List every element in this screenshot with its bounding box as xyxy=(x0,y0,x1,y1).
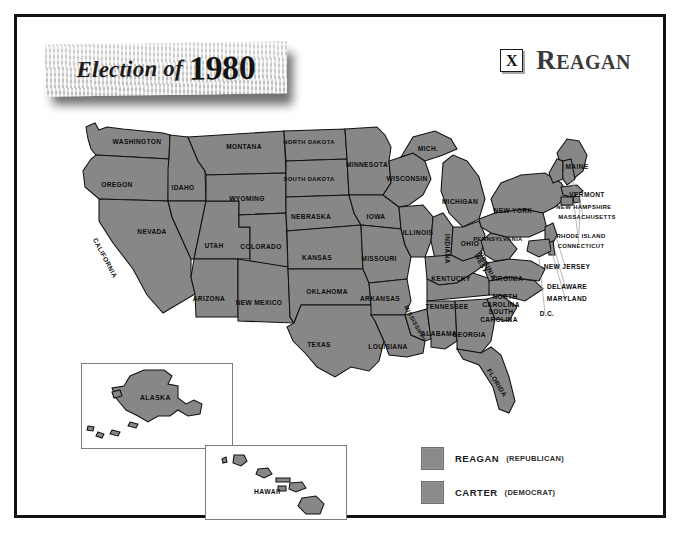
inset-label-alaska: ALASKA xyxy=(140,394,171,401)
inset-alaska[interactable]: ALASKA xyxy=(81,363,233,449)
state-oregon[interactable] xyxy=(83,155,169,201)
state-label-connecticut: CONNECTICUT xyxy=(558,243,605,249)
state-label-texas: TEXAS xyxy=(307,341,331,348)
hawaii-kauai[interactable] xyxy=(233,455,247,466)
state-label-michigan: MICHIGAN xyxy=(442,198,478,205)
leader-line-maryland xyxy=(551,249,565,298)
state-label-massachusetts: MASSACHUSETTS xyxy=(558,214,616,220)
state-label-carolina: CAROLINA xyxy=(482,301,520,308)
state-label-south: SOUTH xyxy=(489,308,514,315)
state-label-arizona: ARIZONA xyxy=(193,295,226,302)
state-label-kansas: KANSAS xyxy=(302,254,332,261)
state-label-nebraska: NEBRASKA xyxy=(291,213,331,220)
state-label-d-c-: D.C. xyxy=(540,310,555,317)
state-vermont[interactable] xyxy=(549,159,563,183)
state-label-missouri: MISSOURI xyxy=(361,255,396,262)
state-label-new-jersey: NEW JERSEY xyxy=(544,263,591,270)
state-maryland[interactable] xyxy=(527,239,551,257)
hawaii-big-island[interactable] xyxy=(298,496,324,514)
hawaii-maui[interactable] xyxy=(289,482,306,492)
state-texas[interactable] xyxy=(287,305,384,377)
winner-name: REAGAN xyxy=(536,47,631,74)
title-year: 1980 xyxy=(189,49,256,88)
hawaii-oahu[interactable] xyxy=(256,468,272,478)
state-label-idaho: IDAHO xyxy=(172,184,195,191)
alaska-aleutian-1[interactable] xyxy=(112,390,122,398)
state-label-new-york: NEW YORK xyxy=(494,207,533,214)
legend-label-carter: CARTER xyxy=(455,487,498,498)
state-label-north: NORTH xyxy=(492,293,517,300)
winner-name-initial: R xyxy=(536,45,556,75)
legend-label-reagan: REAGAN xyxy=(455,453,499,464)
state-label-arkansas: ARKANSAS xyxy=(360,295,400,302)
state-label-north-dakota: NORTH DAKOTA xyxy=(283,139,335,145)
state-label-mich-: MICH. xyxy=(418,145,438,152)
title-banner-text: Election of 1980 xyxy=(45,41,287,96)
winner-name-remainder: EAGAN xyxy=(556,51,631,73)
alaska-aleutian-3[interactable] xyxy=(110,430,120,436)
state-label-indiana: INDIANA xyxy=(444,234,451,264)
state-label-new-mexico: NEW MEXICO xyxy=(236,299,283,306)
state-label-colorado: COLORADO xyxy=(240,243,281,250)
state-label-iowa: IOWA xyxy=(367,213,386,220)
legend-row-reagan[interactable]: REAGAN (REPUBLICAN) xyxy=(421,447,564,470)
legend-party-reagan: (REPUBLICAN) xyxy=(506,454,564,463)
state-label-utah: UTAH xyxy=(204,242,223,249)
state-label-minnesota: MINNESOTA xyxy=(346,161,388,168)
state-florida[interactable] xyxy=(457,347,515,413)
title-prefix: Election of xyxy=(77,56,183,83)
state-new-mexico[interactable] xyxy=(238,259,294,323)
election-poster: Election of 1980 X REAGAN xyxy=(0,0,683,533)
hawaii-svg xyxy=(206,446,346,519)
state-label-carolina: CAROLINA xyxy=(480,316,518,323)
state-label-illinois: ILLINOIS xyxy=(403,229,434,236)
legend-row-carter[interactable]: CARTER (DEMOCRAT) xyxy=(421,481,564,504)
legend-swatch-carter xyxy=(421,481,444,504)
winner-checkbox[interactable]: X xyxy=(500,49,523,72)
state-michigan[interactable] xyxy=(441,155,485,227)
legend-swatch-reagan xyxy=(421,447,444,470)
legend-party-carter: (DEMOCRAT) xyxy=(505,488,556,497)
winner-check-mark: X xyxy=(506,52,518,70)
state-label-montana: MONTANA xyxy=(226,143,262,150)
state-north-dakota[interactable] xyxy=(284,129,347,161)
state-label-georgia: GEORGIA xyxy=(452,331,486,338)
alaska-svg xyxy=(82,364,232,448)
state-label-south-dakota: SOUTH DAKOTA xyxy=(283,176,335,182)
alaska-aleutian-5[interactable] xyxy=(87,426,94,431)
state-label-oregon: OREGON xyxy=(101,181,132,188)
state-label-pennsylvania: PENNSYLVANIA xyxy=(473,236,523,242)
state-label-wisconsin: WISCONSIN xyxy=(386,175,427,182)
leader-line-new-jersey xyxy=(556,237,565,266)
state-label-vermont: VERMONT xyxy=(569,191,604,198)
alaska-aleutian-2[interactable] xyxy=(128,422,138,428)
state-montana[interactable] xyxy=(188,131,286,175)
state-label-tennessee: TENNESSEE xyxy=(425,303,468,310)
state-kansas[interactable] xyxy=(287,225,363,269)
title-banner: Election of 1980 xyxy=(45,43,291,101)
state-label-kentucky: KENTUCKY xyxy=(431,275,471,282)
inset-label-hawaii: HAWAII xyxy=(254,488,281,495)
state-label-washington: WASHINGTON xyxy=(113,138,162,145)
state-label-new-hampshire: NEW HAMPSHIRE xyxy=(556,204,611,210)
winner-indicator: X REAGAN xyxy=(500,47,631,74)
state-arizona[interactable] xyxy=(191,259,238,317)
map-legend: REAGAN (REPUBLICAN) CARTER (DEMOCRAT) xyxy=(421,447,564,515)
inset-hawaii[interactable]: HAWAII xyxy=(205,445,347,520)
state-label-nevada: NEVADA xyxy=(137,228,166,235)
state-label-louisiana: LOUISIANA xyxy=(368,343,407,350)
state-label-wyoming: WYOMING xyxy=(229,195,264,202)
hawaii-niihau[interactable] xyxy=(222,457,227,463)
state-label-oklahoma: OKLAHOMA xyxy=(306,288,348,295)
state-label-rhode-island: RHODE ISLAND xyxy=(556,233,605,239)
poster-frame: Election of 1980 X REAGAN xyxy=(14,14,666,518)
state-label-maine: MAINE xyxy=(566,163,589,170)
hawaii-molokai[interactable] xyxy=(276,478,290,482)
state-label-maryland: MARYLAND xyxy=(547,295,587,302)
state-label-delaware: DELAWARE xyxy=(547,283,587,290)
alaska-aleutian-4[interactable] xyxy=(96,432,104,438)
